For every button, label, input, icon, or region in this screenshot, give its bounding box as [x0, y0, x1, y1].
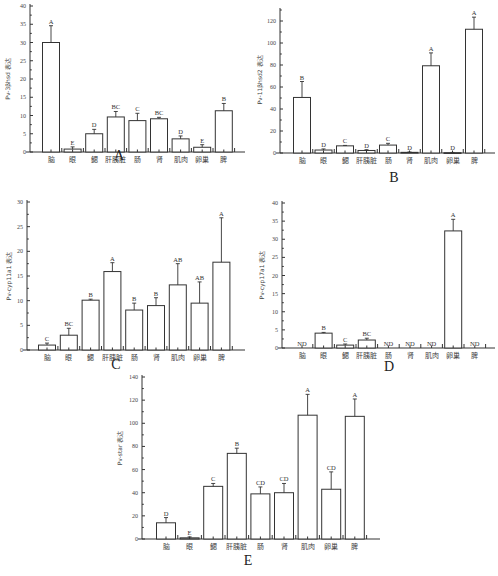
x-category-label: 鳃 [91, 155, 98, 164]
y-tick-label: 25 [20, 58, 26, 64]
significance-letter: A [451, 211, 456, 218]
x-category-label: 肌肉 [174, 155, 188, 164]
y-tick-label: 5 [23, 131, 26, 137]
bar [107, 117, 124, 152]
x-category-label: 脑 [299, 156, 306, 165]
y-tick-label: 40 [20, 3, 26, 9]
y-tick-label: 60 [132, 467, 138, 473]
y-tick-label: 80 [132, 443, 138, 449]
significance-letter: AB [195, 274, 205, 281]
x-category-label: 肌肉 [301, 542, 315, 551]
bar [345, 416, 364, 539]
x-category-label: 脾 [471, 156, 478, 165]
bar [43, 43, 60, 153]
x-category-label: 脑 [48, 155, 55, 164]
x-category-label: 眼 [320, 157, 327, 165]
significance-letter: C [45, 335, 49, 342]
y-tick-label: 15 [272, 291, 278, 297]
bar [298, 415, 317, 539]
bar [227, 453, 246, 539]
y-axis-label: Pv-3βhsd 表达 [4, 58, 12, 99]
significance-letter: E [71, 139, 75, 146]
y-tick-label: 35 [20, 21, 26, 27]
significance-letter: B [300, 74, 305, 81]
x-category-label: 脾 [220, 155, 227, 164]
significance-letter: C [343, 336, 347, 343]
x-category-label: 肠 [385, 156, 392, 165]
significance-letter: B [321, 324, 326, 331]
significance-letter: C [135, 105, 139, 112]
significance-letter: D [92, 121, 97, 128]
significance-letter: D [321, 141, 326, 148]
y-tick-label: 40 [132, 490, 138, 496]
chart-panel-a: 0510152025303540Pv-3βhsd 表达A脑E眼D鳃BC肝胰脏C肠… [0, 0, 250, 170]
significance-letter: BC [64, 320, 73, 327]
x-category-label: 肠 [134, 155, 141, 164]
bar [251, 494, 270, 539]
panel-label-e: E [233, 553, 263, 569]
y-tick-label: 25 [272, 254, 278, 260]
bar-chart-e: 020406080100120140Pv-star 表达D脑E眼C鳃B肝胰脏CD… [100, 368, 400, 548]
significance-letter: AB [173, 256, 183, 263]
y-tick-label: 5 [275, 327, 278, 333]
significance-letter: C [343, 137, 347, 144]
significance-letter: BC [111, 103, 120, 110]
y-tick-label: 15 [20, 94, 26, 100]
significance-letter: D [164, 510, 169, 517]
y-tick-label: 10 [20, 113, 26, 119]
y-tick-label: 5 [20, 322, 23, 328]
bar [215, 111, 232, 152]
y-tick-label: 30 [272, 236, 278, 242]
y-tick-label: 60 [270, 84, 276, 90]
significance-letter: D [407, 144, 412, 151]
y-tick-label: 25 [17, 224, 23, 230]
bar [423, 66, 440, 153]
y-tick-label: 40 [272, 200, 278, 206]
x-category-label: 脑 [163, 542, 170, 551]
bar-chart-d: 0510152025303540Pv-cyp17a1 表达ND脑B眼C鳃BC肝胰… [240, 180, 498, 350]
x-category-label: 肠 [257, 542, 264, 551]
x-category-label: 肾 [153, 353, 160, 362]
y-tick-label: 10 [272, 309, 278, 315]
significance-letter: BC [362, 330, 371, 337]
x-category-label: 卵巢 [193, 353, 207, 362]
significance-letter: D [450, 144, 455, 151]
significance-letter: B [154, 290, 159, 297]
x-category-label: 肌肉 [171, 353, 185, 362]
y-axis-label: Pv-star 表达 [116, 431, 124, 466]
chart-panel-e: 020406080100120140Pv-star 表达D脑E眼C鳃B肝胰脏CD… [100, 368, 400, 576]
x-category-label: 肾 [406, 156, 413, 165]
significance-letter: A [219, 210, 224, 217]
significance-letter: B [222, 95, 227, 102]
chart-panel-b: 020406080100120Pv-11βhsd2 表达B脑D眼C鳃D肝胰脏C肠… [240, 0, 498, 170]
significance-letter: A [429, 45, 434, 52]
panel-label-a: A [104, 148, 134, 164]
x-category-label: 卵巢 [195, 155, 209, 164]
y-tick-label: 30 [17, 199, 23, 205]
y-tick-label: 120 [267, 18, 276, 24]
significance-letter: A [305, 386, 310, 393]
y-tick-label: 80 [270, 62, 276, 68]
x-category-label: 鳃 [87, 353, 94, 362]
bar [86, 134, 103, 152]
significance-letter: D [178, 128, 183, 135]
significance-letter: B [88, 291, 93, 298]
x-category-label: 肾 [281, 542, 288, 551]
significance-letter: B [235, 440, 240, 447]
y-tick-label: 20 [272, 273, 278, 279]
bar-chart-c: 051015202530Pv-cyp11a1 表达C脑BC眼B鳃A肝胰脏B肠B肾… [0, 180, 250, 350]
bar [151, 119, 168, 152]
x-category-label: 脑 [44, 353, 51, 362]
x-category-label: 肌肉 [424, 156, 438, 165]
bar [294, 97, 311, 153]
x-category-label: 脾 [351, 542, 358, 551]
y-axis-label: Pv-cyp11a1 表达 [5, 252, 13, 301]
x-category-label: 眼 [69, 156, 76, 164]
bar-chart-a: 0510152025303540Pv-3βhsd 表达A脑E眼D鳃BC肝胰脏C肠… [0, 0, 250, 160]
significance-letter: D [364, 142, 369, 149]
y-tick-label: 120 [129, 397, 138, 403]
bar [466, 29, 483, 153]
x-category-label: 卵巢 [446, 156, 460, 165]
significance-letter: A [110, 255, 115, 262]
bar [275, 493, 294, 539]
